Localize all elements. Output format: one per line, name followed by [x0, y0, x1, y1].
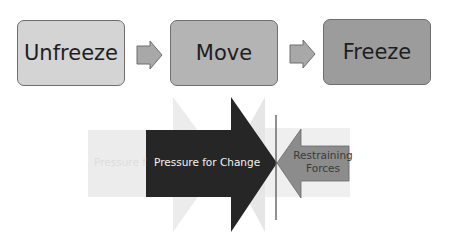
- restraining-label-line2: Forces: [293, 162, 353, 174]
- driving-force-label: Pressure for Change: [150, 156, 278, 168]
- force-field-diagram: [0, 0, 450, 243]
- restraining-label-line1: Restraining: [293, 149, 353, 161]
